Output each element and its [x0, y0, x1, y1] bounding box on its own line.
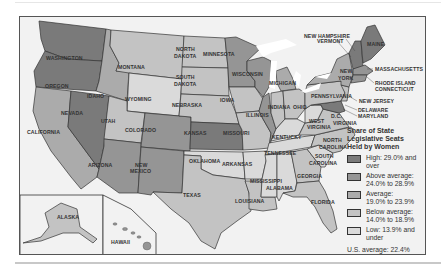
label-wisconsin: WISCONSIN — [232, 71, 263, 77]
us-average: U.S. average: 22.4% — [347, 246, 426, 253]
state-montana — [110, 30, 184, 79]
swatch-high — [347, 155, 361, 163]
label-maryland: MARYLAND — [358, 113, 388, 119]
label-tennessee: TENNESSEE — [264, 150, 297, 156]
map-frame: WASHINGTON OREGON CALIFORNIA NEVADA IDAH… — [19, 16, 426, 255]
swatch-above-average — [347, 173, 361, 181]
label-michigan: MICHIGAN — [269, 80, 296, 86]
label-utah: UTAH — [101, 118, 116, 124]
bottom-rule — [15, 262, 441, 264]
label-illinois: ILLINOIS — [246, 112, 269, 118]
label-oklahoma: OKLAHOMA — [189, 158, 220, 164]
label-oregon: OREGON — [45, 83, 69, 89]
label-nevada: NEVADA — [61, 110, 83, 116]
legend-item-low: Low: 13.9% andunder — [331, 226, 426, 241]
swatch-below-average — [347, 209, 361, 217]
label-vermont: VERMONT — [317, 38, 344, 44]
state-kansas — [190, 122, 243, 150]
label-arizona: ARIZONA — [88, 162, 112, 168]
label-alabama: ALABAMA — [266, 185, 293, 191]
label-north-dakota-2: DAKOTA — [174, 53, 197, 59]
legend-label: 19.0% to 23.9% — [366, 198, 414, 206]
label-iowa: IOWA — [220, 97, 234, 103]
label-massachusetts: MASSACHUSETTS — [375, 66, 423, 72]
label-dc: D.C. — [331, 113, 342, 119]
label-indiana: INDIANA — [268, 104, 290, 110]
label-pennsylvania: PENNSYLVANIA — [311, 93, 352, 99]
legend-item-below-average: Below average:14.0% to 18.9% — [331, 208, 426, 223]
swatch-low — [347, 227, 361, 235]
legend-label: over — [366, 162, 416, 170]
label-wyoming: WYOMING — [125, 96, 152, 102]
label-texas: TEXAS — [183, 192, 201, 198]
legend: Share of State Legislative Seats Held by… — [331, 127, 426, 253]
label-new-york-1: NEW — [340, 68, 352, 74]
label-arkansas: ARKANSAS — [222, 161, 253, 167]
legend-title: Share of State Legislative Seats Held by… — [347, 127, 426, 151]
label-california: CALIFORNIA — [27, 129, 60, 135]
legend-title-line-2: Legislative Seats — [347, 135, 426, 143]
legend-label: Low: 13.9% and — [366, 226, 415, 234]
label-west-virginia-2: VIRGINIA — [307, 124, 331, 130]
legend-item-above-average: Above average:24.0% to 28.9% — [331, 172, 426, 187]
label-kentucky: KENTUCKY — [272, 134, 302, 140]
label-new-york-2: YORK — [338, 75, 354, 81]
label-minnesota: MINNESOTA — [203, 51, 235, 57]
label-idaho: IDAHO — [87, 93, 104, 99]
legend-label: High: 29.0% and — [366, 154, 416, 162]
legend-label: under — [366, 234, 415, 242]
label-louisiana: LOUISIANA — [235, 198, 265, 204]
label-south-dakota-1: SOUTH — [176, 74, 195, 80]
legend-label: 24.0% to 28.9% — [366, 180, 414, 188]
label-south-dakota-2: DAKOTA — [174, 81, 197, 87]
label-virginia: VIRGINIA — [333, 120, 357, 126]
label-new-mexico-2: MEXICO — [130, 168, 151, 174]
legend-label: Above average: — [366, 172, 414, 180]
swatch-average — [347, 191, 361, 199]
label-hawaii: HAWAII — [111, 239, 131, 245]
state-connecticut — [351, 75, 367, 83]
label-maine: MAINE — [367, 41, 385, 47]
legend-item-average: Average:19.0% to 23.9% — [331, 190, 426, 205]
label-missouri: MISSOURI — [223, 130, 250, 136]
legend-label: Below average: — [366, 208, 414, 216]
legend-title-line-1: Share of State — [347, 127, 426, 135]
legend-label: Average: — [366, 190, 414, 198]
label-mississippi: MISSISSIPPI — [250, 178, 282, 184]
label-ohio: OHIO — [293, 104, 307, 110]
label-connecticut: CONNECTICUT — [375, 86, 415, 92]
legend-item-high: High: 29.0% andover — [331, 154, 426, 169]
label-washington: WASHINGTON — [46, 55, 83, 61]
state-wyoming — [127, 73, 182, 116]
label-north-dakota-1: NORTH — [176, 46, 195, 52]
label-kansas: KANSAS — [184, 130, 207, 136]
label-colorado: COLORADO — [125, 127, 156, 133]
label-alaska: ALASKA — [57, 214, 79, 220]
label-georgia: GEORGIA — [297, 173, 322, 179]
label-nebraska: NEBRASKA — [172, 102, 202, 108]
top-rule — [15, 2, 441, 3]
legend-title-line-3: Held by Women — [347, 143, 426, 151]
label-new-jersey: NEW JERSEY — [359, 98, 394, 104]
legend-label: 14.0% to 18.9% — [366, 216, 414, 224]
label-montana: MONTANA — [118, 64, 145, 70]
